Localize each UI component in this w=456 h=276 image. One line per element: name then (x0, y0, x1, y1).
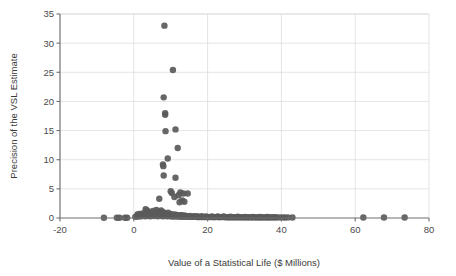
scatter-chart: -20020406080 05101520253035 Value of a S… (0, 0, 456, 276)
data-point (227, 214, 233, 220)
data-point (264, 214, 270, 220)
data-point (175, 145, 181, 151)
data-point (203, 213, 209, 219)
data-point (162, 128, 168, 134)
y-tick-label: 5 (49, 183, 54, 194)
data-point (172, 126, 178, 132)
data-point (209, 213, 215, 219)
data-point (162, 112, 168, 118)
data-point (171, 194, 177, 200)
data-point (176, 199, 182, 205)
x-tick-label: 80 (424, 224, 435, 235)
y-tick-label: 15 (43, 125, 54, 136)
data-point (165, 155, 171, 161)
y-tick-label: 10 (43, 154, 54, 165)
data-point (221, 213, 227, 219)
data-point (184, 190, 190, 196)
data-point (249, 214, 255, 220)
y-tick-label: 30 (43, 38, 54, 49)
x-axis-title: Value of a Statistical Life ($ Millions) (168, 257, 320, 268)
data-point (170, 67, 176, 73)
data-point (242, 214, 248, 220)
data-point (161, 22, 167, 28)
chart-canvas: -20020406080 05101520253035 Value of a S… (0, 0, 456, 276)
chart-background (0, 0, 456, 276)
y-tick-label: 25 (43, 67, 54, 78)
x-tick-label: 20 (202, 224, 213, 235)
x-tick-label: -20 (53, 224, 67, 235)
y-axis-title: Precision of the VSL Estimate (8, 53, 19, 178)
y-tick-label: 0 (49, 212, 54, 223)
data-point (160, 172, 166, 178)
data-point (257, 214, 263, 220)
data-point (172, 175, 178, 181)
data-point (235, 214, 241, 220)
x-tick-label: 40 (276, 224, 287, 235)
data-point (272, 214, 278, 220)
data-point (160, 163, 166, 169)
data-point (160, 94, 166, 100)
y-tick-label: 35 (43, 8, 54, 19)
data-point (215, 213, 221, 219)
y-tick-label: 20 (43, 96, 54, 107)
data-point (156, 196, 162, 202)
x-tick-label: 0 (131, 224, 136, 235)
x-tick-label: 60 (350, 224, 361, 235)
